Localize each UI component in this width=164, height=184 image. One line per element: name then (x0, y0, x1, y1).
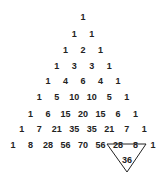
triangle-cell: 6 (45, 110, 50, 119)
triangle-cell: 35 (87, 125, 97, 134)
triangle-cell: 2 (80, 46, 85, 55)
triangle-cell: 3 (89, 62, 94, 71)
triangle-cell: 1 (98, 46, 103, 55)
triangle-cell: 1 (72, 30, 77, 39)
triangle-cell: 1 (28, 110, 33, 119)
triangle-cell: 1 (37, 93, 42, 102)
triangle-cell: 6 (80, 77, 85, 86)
triangle-cell: 1 (54, 62, 59, 71)
triangle-cell: 1 (45, 77, 50, 86)
triangle-cell: 15 (60, 110, 70, 119)
triangle-cell: 1 (10, 141, 15, 150)
triangle-cell: 7 (124, 125, 129, 134)
triangle-cell: 5 (107, 93, 112, 102)
triangle-cell: 56 (95, 141, 105, 150)
triangle-cell: 15 (95, 110, 105, 119)
triangle-cell: 3 (72, 62, 77, 71)
triangle-cell: 1 (80, 13, 85, 22)
triangle-cell: 1 (133, 110, 138, 119)
triangle-cell: 1 (63, 46, 68, 55)
triangle-cell: 8 (133, 141, 138, 150)
triangle-cell: 21 (52, 125, 62, 134)
triangle-cell: 1 (89, 30, 94, 39)
triangle-cell: 8 (28, 141, 33, 150)
triangle-cell: 4 (98, 77, 103, 86)
triangle-cell: 10 (87, 93, 97, 102)
triangle-cell: 10 (69, 93, 79, 102)
triangle-cell: 1 (107, 62, 112, 71)
triangle-cell: 28 (43, 141, 53, 150)
triangle-cell: 4 (63, 77, 68, 86)
triangle-cell: 1 (19, 125, 24, 134)
pascal-triangle-diagram: 1111211331146411510105116152015611721353… (0, 0, 164, 184)
triangle-cell: 28 (113, 141, 123, 150)
triangle-cell: 6 (115, 110, 120, 119)
triangle-cell: 1 (124, 93, 129, 102)
triangle-cell: 56 (60, 141, 70, 150)
triangle-cell: 5 (54, 93, 59, 102)
highlight-sum: 36 (122, 156, 132, 165)
triangle-cell: 1 (115, 77, 120, 86)
triangle-cell: 1 (142, 125, 147, 134)
triangle-cell: 21 (104, 125, 114, 134)
triangle-cell: 7 (37, 125, 42, 134)
triangle-cell: 35 (69, 125, 79, 134)
triangle-cell: 20 (78, 110, 88, 119)
triangle-cell: 1 (150, 141, 155, 150)
triangle-cell: 70 (78, 141, 88, 150)
highlight-triangle (0, 0, 164, 184)
